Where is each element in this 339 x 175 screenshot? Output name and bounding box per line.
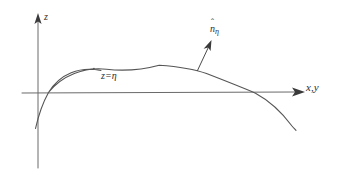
xy-axis-group: [22, 88, 305, 97]
normal-vector-symbol: ̂ n: [210, 24, 215, 34]
free-surface-curve-group: [36, 65, 297, 130]
figure-canvas: z x,y z=η ̂ n η: [0, 0, 339, 175]
z-axis-label: z: [44, 12, 48, 22]
normal-vector-base-symbol: n: [210, 23, 215, 34]
surface-equation-label: z=η: [101, 71, 117, 81]
xy-axis-label: x,y: [306, 82, 319, 93]
free-surface-curve: [36, 65, 297, 130]
diagram-svg: [0, 0, 339, 175]
normal-vector-group: [198, 40, 212, 71]
z-axis-group: [34, 13, 41, 168]
normal-vector-subscript: η: [215, 27, 219, 36]
normal-vector-label: ̂ n η: [210, 24, 219, 36]
normal-vector-shaft: [198, 46, 210, 71]
